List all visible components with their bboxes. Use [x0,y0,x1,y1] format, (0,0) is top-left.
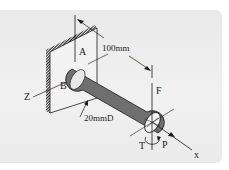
label-100mm: 100mm [102,43,130,53]
x-axis-arrow-icon [168,132,175,137]
label-z: Z [24,91,30,102]
label-f: F [156,85,162,96]
label-a: A [79,46,87,57]
shaft-diagram: A B Z 100mm 20mmD F T P x [0,0,229,170]
label-b: B [60,80,67,91]
label-p: P [162,139,168,150]
label-x: x [194,149,199,160]
label-t: T [139,140,145,151]
label-20mmd: 20mmD [84,113,114,123]
